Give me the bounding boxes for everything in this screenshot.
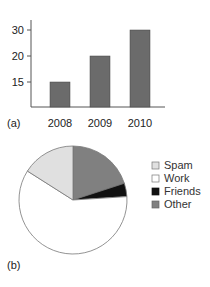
bar-2009 <box>90 56 110 107</box>
legend-swatch-work <box>152 175 159 182</box>
bar-2008 <box>50 82 70 107</box>
pie-chart <box>19 146 127 254</box>
panel-label-b: (b) <box>7 259 20 271</box>
bar-chart: 30 20 15 2008 2009 2010 (a) <box>7 20 165 129</box>
x-tick-label: 2008 <box>48 117 72 129</box>
y-tick-label: 30 <box>12 24 24 36</box>
legend-swatch-friends <box>152 188 159 195</box>
legend-swatch-spam <box>152 162 159 169</box>
x-tick-label: 2010 <box>128 117 152 129</box>
legend-label-spam: Spam <box>164 159 193 171</box>
y-tick-label: 20 <box>12 50 24 62</box>
legend-label-work: Work <box>164 172 190 184</box>
y-tick-label: 15 <box>12 76 24 88</box>
legend-label-other: Other <box>164 198 192 210</box>
figure: 30 20 15 2008 2009 2010 (a) (b) Spam Wor… <box>0 0 210 287</box>
legend-label-friends: Friends <box>164 185 201 197</box>
legend-swatch-other <box>152 201 159 208</box>
x-tick-label: 2009 <box>88 117 112 129</box>
legend: Spam Work Friends Other <box>152 159 201 210</box>
bar-2010 <box>130 30 150 107</box>
panel-label-a: (a) <box>7 117 20 129</box>
